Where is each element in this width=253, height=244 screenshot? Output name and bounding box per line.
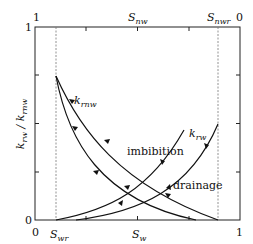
- top-right-label: 0: [236, 11, 243, 24]
- swr-label: Swr: [50, 228, 69, 243]
- imbibition-label: imbibition: [127, 145, 184, 158]
- x-left-label: 0: [32, 226, 39, 239]
- krw-label: krw: [189, 127, 206, 142]
- sw-label: Sw: [132, 228, 147, 243]
- relative-permeability-chart: 1 0 0 1 1 0 Swr Sw Snw Snwr krnw krw imb…: [0, 0, 253, 244]
- y-top-label: 1: [25, 21, 32, 34]
- krw-imbibition-curve: [56, 130, 184, 220]
- top-left-label: 1: [33, 11, 40, 24]
- krnw-label: krnw: [74, 94, 97, 109]
- snw-label: Snw: [128, 11, 148, 26]
- y-bottom-label: 0: [25, 214, 32, 227]
- drainage-label: drainage: [173, 179, 223, 192]
- y-axis-label: krw / krnw: [14, 99, 29, 150]
- x-right-label: 1: [236, 226, 243, 239]
- snwr-label: Snwr: [207, 11, 232, 26]
